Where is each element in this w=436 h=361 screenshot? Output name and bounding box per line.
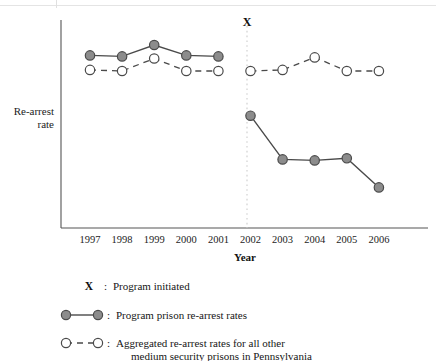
data-point-aggregated-2000 <box>182 66 191 75</box>
series-markers <box>85 40 383 192</box>
x-tick-1997: 1997 <box>80 234 101 245</box>
x-tick-2006: 2006 <box>368 234 389 245</box>
rearrest-rate-line-chart: X Re-arrest rate 19971998199920002001200… <box>0 0 436 361</box>
y-axis-label-line-2: rate <box>38 118 55 130</box>
data-point-program-2004 <box>310 156 319 165</box>
data-point-program-1998 <box>117 52 126 61</box>
legend-item-program-rates: : Program prison re-arrest rates <box>61 309 247 321</box>
data-point-program-2003 <box>278 155 287 164</box>
chart-axes <box>61 20 428 228</box>
x-axis-tick-labels: 1997199819992000200120022003200420052006 <box>80 234 390 245</box>
chart-figure: X Re-arrest rate 19971998199920002001200… <box>0 0 436 361</box>
data-point-program-2002 <box>246 111 255 120</box>
y-axis-label-line-1: Re-arrest <box>14 105 54 117</box>
page-edge-artifact-vertical <box>56 0 57 8</box>
data-point-aggregated-2005 <box>342 66 351 75</box>
legend-label-aggregated-line-1: Aggregated re-arrest rates for all other <box>116 337 285 349</box>
legend-label-program-rates: Program prison re-arrest rates <box>116 309 247 321</box>
data-point-program-1997 <box>85 51 94 60</box>
data-point-program-2001 <box>214 52 223 61</box>
data-point-aggregated-2004 <box>310 53 319 62</box>
legend-label-aggregated-line-2: medium security prisons in Pennsylvania <box>131 350 312 361</box>
data-point-aggregated-2002 <box>246 66 255 75</box>
data-point-aggregated-1997 <box>85 65 94 74</box>
x-tick-1999: 1999 <box>144 234 165 245</box>
data-point-aggregated-2003 <box>278 65 287 74</box>
data-point-program-1999 <box>150 40 159 49</box>
legend-filled-circle-left <box>61 310 70 319</box>
data-point-aggregated-1999 <box>150 54 159 63</box>
chart-legend: X : Program initiated : Program prison r… <box>61 280 312 361</box>
data-point-program-2000 <box>182 51 191 60</box>
legend-separator-1: : <box>104 280 107 292</box>
data-point-program-2005 <box>342 154 351 163</box>
x-tick-2003: 2003 <box>272 234 293 245</box>
legend-open-circle-left <box>61 338 70 347</box>
x-axis-title: Year <box>234 251 256 263</box>
legend-item-aggregated-rates: : Aggregated re-arrest rates for all oth… <box>61 337 312 361</box>
series-lines <box>90 45 379 187</box>
data-point-aggregated-2001 <box>214 66 223 75</box>
legend-separator-2: : <box>107 309 110 321</box>
legend-x-symbol: X <box>85 280 94 292</box>
page-edge-artifact <box>0 5 436 6</box>
x-tick-2000: 2000 <box>176 234 197 245</box>
y-axis-label: Re-arrest rate <box>14 105 54 130</box>
legend-separator-3: : <box>107 337 110 349</box>
x-tick-2004: 2004 <box>304 234 326 245</box>
data-point-aggregated-2006 <box>374 66 383 75</box>
x-tick-2005: 2005 <box>336 234 357 245</box>
legend-item-program-initiated: X : Program initiated <box>85 280 190 292</box>
series-line-program-post-program <box>251 116 379 188</box>
data-point-program-2006 <box>374 183 383 192</box>
legend-filled-circle-right <box>93 310 102 319</box>
x-tick-2001: 2001 <box>208 234 229 245</box>
data-point-aggregated-1998 <box>117 66 126 75</box>
program-initiated-x-marker: X <box>243 15 252 29</box>
x-tick-1998: 1998 <box>112 234 133 245</box>
legend-label-program-initiated: Program initiated <box>113 280 190 292</box>
x-tick-2002: 2002 <box>240 234 261 245</box>
legend-open-circle-right <box>93 338 102 347</box>
